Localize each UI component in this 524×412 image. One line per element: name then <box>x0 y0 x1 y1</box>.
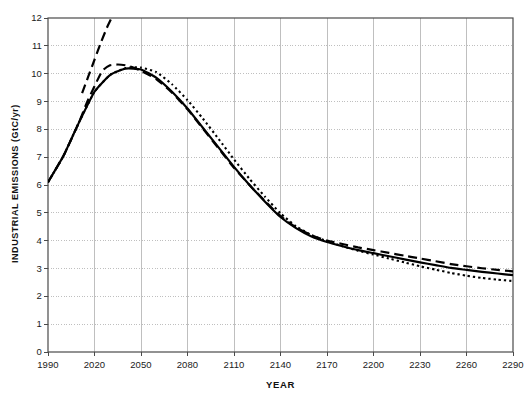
x-tick-label: 2140 <box>261 359 301 370</box>
x-tick-label: 2230 <box>400 359 440 370</box>
y-tick-label: 8 <box>18 123 42 134</box>
y-tick-label: 1 <box>18 318 42 329</box>
x-tick-label: 2260 <box>447 359 487 370</box>
y-tick-label: 7 <box>18 151 42 162</box>
y-tick-label: 2 <box>18 290 42 301</box>
y-axis-title: INDUSTRIAL EMISSIONS (GtC/yr) <box>10 104 20 263</box>
x-tick-label: 2050 <box>121 359 161 370</box>
chart-figure: 0123456789101112 19902020205020802110214… <box>0 0 524 412</box>
y-tick-label: 9 <box>18 96 42 107</box>
x-axis-title: YEAR <box>221 379 341 390</box>
x-tick-label: 2200 <box>354 359 394 370</box>
x-tick-label: 2020 <box>75 359 115 370</box>
y-tick-label: 12 <box>18 12 42 23</box>
plot-canvas <box>0 0 524 412</box>
y-tick-label: 6 <box>18 179 42 190</box>
y-tick-label: 11 <box>18 40 42 51</box>
x-tick-label: 2110 <box>214 359 254 370</box>
y-tick-label: 10 <box>18 68 42 79</box>
y-tick-label: 0 <box>18 346 42 357</box>
x-tick-label: 2080 <box>168 359 208 370</box>
y-tick-label: 4 <box>18 235 42 246</box>
y-tick-label: 5 <box>18 207 42 218</box>
x-tick-label: 1990 <box>28 359 68 370</box>
x-tick-label: 2290 <box>493 359 524 370</box>
x-tick-label: 2170 <box>307 359 347 370</box>
y-tick-label: 3 <box>18 263 42 274</box>
